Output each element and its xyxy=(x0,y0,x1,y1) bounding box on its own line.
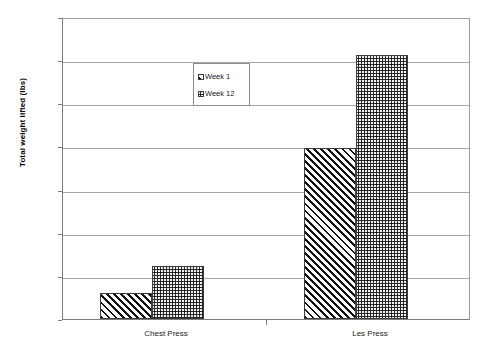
legend-item-week-12: Week 12 xyxy=(198,85,246,102)
bar-chest-press-week-1 xyxy=(100,293,152,319)
legend-swatch-icon xyxy=(198,74,204,80)
gridline xyxy=(63,235,469,236)
x-tick-mark xyxy=(266,320,267,325)
x-category-label-les-press: Les Press xyxy=(310,329,430,338)
bar-les-press-week-12 xyxy=(356,55,408,319)
legend-item-week-1: Week 1 xyxy=(198,68,246,85)
bar-les-press-week-1 xyxy=(304,148,356,319)
y-tick-mark xyxy=(58,320,62,321)
legend: Week 1 Week 12 xyxy=(193,63,250,106)
x-category-label-chest-press: Chest Press xyxy=(106,329,226,338)
gridline xyxy=(63,278,469,279)
bar-chart: Total weight lifted (lbs) 350 300 250 20… xyxy=(0,0,489,353)
gridline xyxy=(63,62,469,63)
bar-chest-press-week-12 xyxy=(152,266,204,319)
legend-label: Week 1 xyxy=(205,73,230,81)
gridline xyxy=(63,148,469,149)
gridline xyxy=(63,105,469,106)
gridline xyxy=(63,192,469,193)
plot-area: Week 1 Week 12 xyxy=(62,18,470,320)
legend-label: Week 12 xyxy=(205,90,234,98)
legend-swatch-icon xyxy=(198,91,204,97)
